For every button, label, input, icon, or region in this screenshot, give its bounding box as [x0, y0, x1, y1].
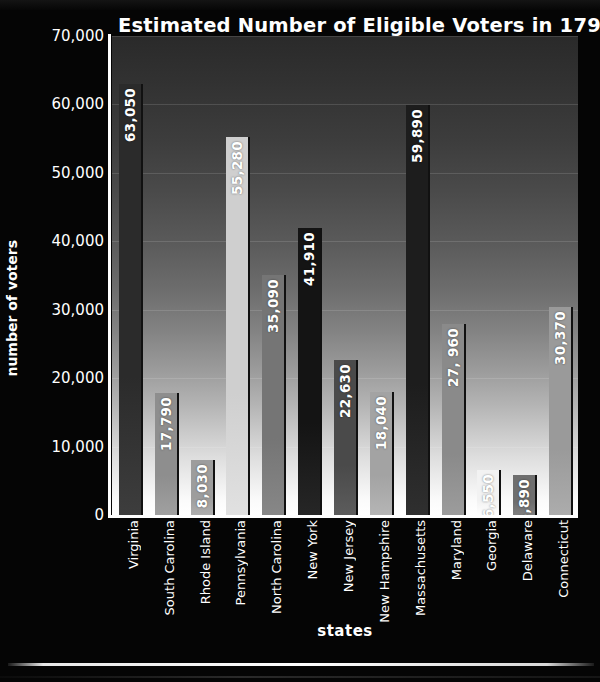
bar-value-label: 55,280 — [229, 141, 245, 195]
gridline — [112, 36, 578, 37]
bar-value-label: 30,370 — [552, 311, 568, 365]
bar-connecticut[interactable]: 30,370 — [549, 307, 573, 515]
x-tick-label: New Hampshire — [377, 520, 392, 623]
x-axis-line — [108, 515, 578, 518]
gridline — [112, 310, 578, 311]
x-tick-label: Massachusetts — [413, 520, 428, 616]
plot-area: 63,05017,7908,03055,28035,09041,91022,63… — [112, 36, 578, 515]
x-tick-label: Rhode Island — [198, 520, 213, 604]
x-tick-label: North Carolina — [269, 520, 284, 614]
y-tick-label: 70,000 — [6, 27, 104, 45]
bar-value-label: 18,040 — [373, 396, 389, 450]
bar-value-label: 17,790 — [158, 397, 174, 451]
gridline — [112, 241, 578, 242]
bar-maryland[interactable]: 27, 960 — [442, 324, 466, 515]
y-tick-label: 0 — [6, 506, 104, 524]
bar-delaware[interactable]: 5,890 — [513, 475, 537, 515]
bar-value-label: 22,630 — [337, 364, 353, 418]
bar-value-label: 41,910 — [301, 232, 317, 286]
bar-value-label: 63,050 — [122, 88, 138, 142]
bar-north-carolina[interactable]: 35,090 — [262, 275, 286, 515]
x-tick-label: South Carolina — [162, 520, 177, 615]
y-axis-tick-labels: 70,00060,00050,00040,00030,00020,00010,0… — [0, 0, 104, 682]
y-tick-label: 50,000 — [6, 164, 104, 182]
x-tick-label: Connecticut — [556, 520, 571, 598]
x-tick-label: Delaware — [520, 520, 535, 581]
gridline — [112, 104, 578, 105]
bar-rhode-island[interactable]: 8,030 — [191, 460, 215, 515]
y-axis-line — [108, 34, 111, 517]
bar-value-label: 5,890 — [516, 479, 532, 515]
gridline — [112, 173, 578, 174]
x-tick-label: New York — [305, 520, 320, 580]
bar-value-label: 6,550 — [480, 474, 496, 515]
bar-south-carolina[interactable]: 17,790 — [155, 393, 179, 515]
bar-value-label: 59,890 — [409, 109, 425, 163]
bar-new-york[interactable]: 41,910 — [298, 228, 322, 515]
bar-value-label: 27, 960 — [445, 328, 461, 387]
x-tick-label: New Jersey — [341, 520, 356, 592]
x-tick-label: Virginia — [126, 520, 141, 569]
x-axis-title: states — [112, 622, 578, 640]
bar-value-label: 8,030 — [194, 464, 210, 508]
bar-new-jersey[interactable]: 22,630 — [334, 360, 358, 515]
x-tick-label: Maryland — [449, 520, 464, 580]
y-tick-label: 40,000 — [6, 232, 104, 250]
bottom-divider — [8, 663, 594, 666]
y-tick-label: 10,000 — [6, 438, 104, 456]
x-tick-label: Pennsylvania — [233, 520, 248, 605]
bar-value-label: 35,090 — [265, 279, 281, 333]
x-axis-category-labels: VirginiaSouth CarolinaRhode IslandPennsy… — [112, 520, 578, 620]
y-tick-label: 20,000 — [6, 369, 104, 387]
x-tick-label: Georgia — [484, 520, 499, 571]
bar-virginia[interactable]: 63,050 — [119, 84, 143, 515]
bar-pennsylvania[interactable]: 55,280 — [226, 137, 250, 515]
bottom-edge — [0, 676, 600, 678]
bar-massachusetts[interactable]: 59,890 — [406, 105, 430, 515]
y-tick-label: 60,000 — [6, 95, 104, 113]
chart-title: Estimated Number of Eligible Voters in 1… — [118, 14, 580, 37]
bar-new-hampshire[interactable]: 18,040 — [370, 392, 394, 515]
bar-georgia[interactable]: 6,550 — [477, 470, 501, 515]
y-tick-label: 30,000 — [6, 301, 104, 319]
